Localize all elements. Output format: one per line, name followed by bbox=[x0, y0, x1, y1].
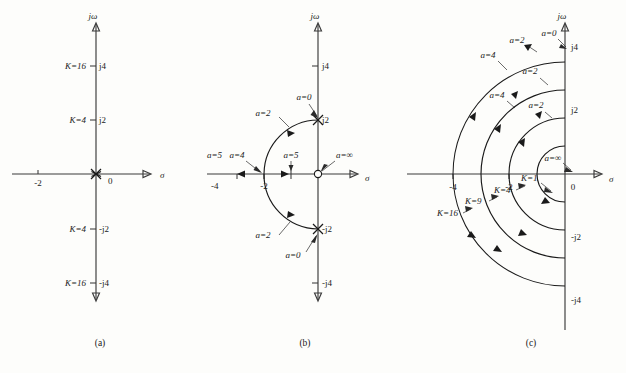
caption-c: (c) bbox=[526, 338, 537, 349]
param-label-a2-second-c: a=2 bbox=[528, 100, 544, 110]
arrowhead-arc-lower-b bbox=[287, 211, 295, 218]
imag-tick-j2-a: j2 bbox=[98, 115, 106, 125]
imag-tick-j4-b: j4 bbox=[321, 61, 330, 71]
panel-b: jω σ j4 j2 -j2 -j4 -2 -4 a=0 a=2 a=4 a=5… bbox=[205, 0, 405, 373]
gain-label-k4-lower-a: K=4 bbox=[68, 224, 86, 234]
arrowhead-k9-lower-c bbox=[493, 245, 502, 252]
gain-label-k1-c: K=1 bbox=[520, 173, 538, 183]
arrowhead-k16-c bbox=[465, 206, 473, 212]
arrowhead-a5-mid-b bbox=[289, 165, 294, 171]
imag-tick-negj2-a: -j2 bbox=[99, 224, 109, 234]
leader-a2-second-c bbox=[545, 112, 552, 118]
real-tick-neg2-a: -2 bbox=[34, 178, 42, 188]
arrowhead-k9-top-c bbox=[511, 91, 518, 99]
gain-label-k9-c: K=9 bbox=[464, 196, 482, 206]
real-axis-label-a: σ bbox=[160, 170, 165, 180]
real-axis-label-c: σ bbox=[609, 174, 614, 184]
gain-label-k16-c: K=16 bbox=[436, 208, 459, 218]
caption-a: (a) bbox=[95, 338, 106, 349]
param-label-a5-mid-b: a=5 bbox=[283, 150, 299, 160]
param-label-ainf-b: a=∞ bbox=[336, 150, 353, 160]
param-label-a0-upper-b: a=0 bbox=[296, 92, 312, 102]
arrowhead-a0-lower-b bbox=[311, 234, 318, 243]
param-label-a2-lower-b: a=2 bbox=[255, 230, 271, 240]
imag-axis-b bbox=[315, 23, 322, 301]
leader-a2-third-c bbox=[540, 78, 548, 85]
param-label-a2-outer-c: a=2 bbox=[509, 35, 525, 45]
arrowhead-k4-lower-c bbox=[518, 229, 527, 236]
panel-a: jω σ -2 0 j4 K=16 j2 K=4 -j2 K=4 -j4 K=1… bbox=[0, 0, 205, 373]
real-tick-0-c: 0 bbox=[571, 182, 576, 192]
imag-tick-j2-c: j2 bbox=[570, 105, 578, 115]
leader-a2-lower-b bbox=[279, 222, 290, 235]
arrowhead-arc-upper-b bbox=[287, 130, 295, 137]
imag-tick-negj4-a: -j4 bbox=[99, 278, 109, 288]
leader-a4-third-c bbox=[507, 101, 515, 108]
arrowhead-real-left-b bbox=[237, 171, 245, 178]
param-label-a0-c: a=0 bbox=[541, 28, 557, 38]
param-label-a5-left-b: a=5 bbox=[207, 150, 223, 160]
gain-label-k4-upper-a: K=4 bbox=[68, 115, 86, 125]
gain-label-k16-upper-a: K=16 bbox=[64, 61, 87, 71]
leader-a4-outer-c bbox=[498, 61, 507, 70]
imag-tick-negj2-b: -j2 bbox=[322, 224, 332, 234]
caption-b: (b) bbox=[299, 338, 310, 349]
param-label-a0-lower-b: a=0 bbox=[285, 250, 301, 260]
real-axis-label-b: σ bbox=[365, 173, 370, 183]
real-tick-0-a: 0 bbox=[108, 176, 113, 186]
zero-marker-origin-b bbox=[314, 170, 321, 177]
real-axis-a bbox=[12, 171, 151, 178]
arrowhead-k9-upper-c bbox=[494, 124, 501, 133]
panel-c: jω σ j4 j2 -j2 -j4 -4 -2 0 a=0 a=2 a=4 a… bbox=[405, 0, 626, 373]
arrowhead-k4-top-c bbox=[535, 111, 542, 119]
imag-tick-negj4-b: -j4 bbox=[322, 278, 332, 288]
imag-tick-negj2-c: -j2 bbox=[571, 232, 581, 242]
imag-axis-label-c: jω bbox=[557, 11, 567, 21]
locus-arc-lower-b bbox=[264, 174, 318, 229]
real-tick-neg4-b: -4 bbox=[211, 181, 219, 191]
real-axis-c bbox=[407, 171, 602, 178]
arrowhead-ainf-b bbox=[321, 164, 329, 172]
param-label-a2-third-c: a=2 bbox=[522, 66, 538, 76]
param-label-ainf-c: a=∞ bbox=[545, 153, 562, 163]
imag-tick-j4-a: j4 bbox=[98, 61, 107, 71]
arrowhead-a4-b bbox=[254, 166, 263, 173]
gain-label-k4-c: K=4 bbox=[493, 185, 511, 195]
arrowhead-k1-c bbox=[544, 187, 553, 193]
imag-axis-c bbox=[562, 23, 569, 330]
imag-tick-j4-c: j4 bbox=[570, 42, 579, 52]
gain-label-k16-lower-a: K=16 bbox=[64, 278, 87, 288]
leader-a2-upper-b bbox=[279, 117, 289, 127]
param-label-a2-upper-b: a=2 bbox=[255, 108, 271, 118]
param-label-a4-third-c: a=4 bbox=[489, 90, 505, 100]
imag-axis-label-a: jω bbox=[88, 11, 98, 21]
arrowhead-k1-lower-c bbox=[541, 197, 550, 204]
leader-a2-outer-c bbox=[528, 46, 537, 52]
param-label-a4-b: a=4 bbox=[229, 150, 245, 160]
imag-tick-negj4-c: -j4 bbox=[571, 295, 581, 305]
arrowhead-k16-lower-c bbox=[467, 231, 476, 238]
imag-axis-label-b: jω bbox=[310, 11, 320, 21]
param-label-a4-outer-c: a=4 bbox=[480, 50, 496, 60]
arrowhead-real-right-b bbox=[281, 171, 289, 178]
arrowhead-k16-upper-c bbox=[469, 112, 476, 121]
